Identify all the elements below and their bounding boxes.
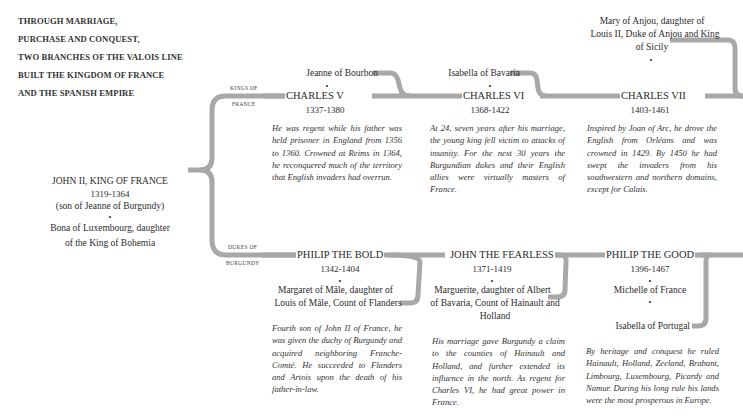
person-description: Inspired by Joan of Arc, he drove the En… [587,122,717,196]
diagram-title: THROUGH MARRIAGE, PURCHASE AND CONQUEST,… [18,12,183,102]
person-description: Fourth son of John II of France, he was … [272,322,402,396]
person-dates: 1342-1404 [300,263,380,275]
spouse-name: Michelle of France [595,284,705,297]
person-name: JOHN II, KING OF FRANCE [51,175,169,187]
branch-label-dukes: BURGUNDY [226,260,260,266]
person-description: He was regent while his father was held … [272,122,402,183]
title-line: PURCHASE AND CONQUEST, [18,30,183,48]
spouse-line: Mary of Anjou, daughter of [586,15,718,28]
marriage-dot-icon: • [646,56,656,65]
spouse-line: of Bavaria, Count of Hainault and [425,297,565,310]
person-name: CHARLES VI [462,90,525,102]
spouse-line: Margaret of Mâle, daughter of [268,284,403,297]
person-dates: 1368-1422 [450,104,530,116]
spouse-name: Jeanne of Bourbon [268,67,378,80]
title-line: TWO BRANCHES OF THE VALOIS LINE [18,48,183,66]
person-dates: 1337-1380 [285,104,365,116]
person-dates: 1396-1467 [610,263,690,275]
spouse-name: Isabella of Portugal [595,320,690,333]
spouse-line: Bona of Luxembourg, daughter [30,222,190,235]
spouse-line: Louis of Mâle, Count of Flanders [268,297,408,310]
person-name: PHILIP THE BOLD [296,249,384,261]
spouse-line: Marguerite, daughter of Albert [425,284,560,297]
spouse-line: Holland [425,310,565,323]
spouse-name: Isabella of Bavaria [430,67,520,80]
spouse-line: of the King of Bohemia [30,235,190,251]
branch-label-kings: FRANCE [232,101,256,107]
person-name: JOHN THE FEARLESS [449,249,555,261]
title-line: AND THE SPANISH EMPIRE [18,84,183,102]
person-note: (son of Jeanne of Burgundy) [30,200,190,213]
person-dates: 1371-1419 [452,263,532,275]
person-dates: 1319-1364 [30,188,190,200]
title-line: BUILT THE KINGDOM OF FRANCE [18,66,183,84]
marriage-dot-icon: • [30,213,190,222]
spouse-line: Louis II, Duke of Anjou and King [586,28,724,41]
person-dates: 1403-1461 [610,104,690,116]
person-description: At 24, seven years after his marriage, t… [430,122,565,196]
branch-label-kings: KINGS OF [230,85,258,91]
person-name: CHARLES VII [620,90,687,102]
person-description: By heritage and conquest he ruled Hainau… [586,345,719,406]
person-name: CHARLES V [285,90,345,102]
title-line: THROUGH MARRIAGE, [18,12,183,30]
branch-label-dukes: DUKES OF [228,244,257,250]
spouse-line: of Sicily [586,41,718,54]
root-person: JOHN II, KING OF FRANCE 1319-1364 (son o… [30,170,190,251]
person-description: His marriage gave Burgundy a claim to th… [432,335,565,409]
marriage-dot-icon: • [645,298,655,307]
person-name: PHILIP THE GOOD [605,249,695,261]
